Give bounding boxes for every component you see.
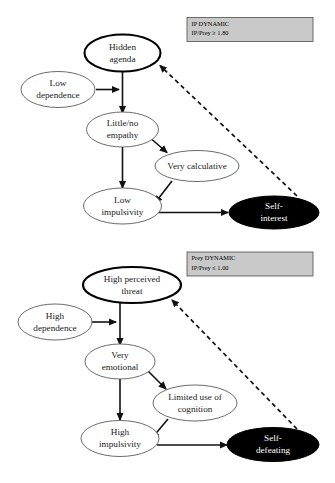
panel-ip-dynamic: IP DYNAMIC IP/Prey ≥ 1.80 Hidden agenda (21, 18, 319, 230)
node-low-dependence[interactable]: Low dependence (21, 72, 95, 108)
node-self-interest-label-line1: Self- (265, 201, 283, 211)
node-hidden-agenda-label-line1: Hidden (109, 42, 136, 52)
node-high-perceived-threat-label-line2: threat (122, 286, 143, 296)
legend-ip-dynamic: IP DYNAMIC IP/Prey ≥ 1.80 (187, 18, 313, 42)
node-limited-use-cognition-label-line2: cognition (178, 404, 213, 414)
node-high-dependence-label-line2: dependence (33, 323, 76, 333)
node-little-no-empathy-label-line2: empathy (107, 130, 139, 140)
node-self-defeating-label-line1: Self- (264, 433, 282, 443)
node-limited-use-cognition-label-line1: Limited use of (168, 392, 223, 402)
node-high-dependence[interactable]: High dependence (18, 304, 92, 340)
node-self-defeating-label-line2: defeating (256, 445, 291, 455)
node-high-impulsivity[interactable]: High impulsivity (81, 421, 159, 457)
legend-title: Prey DYNAMIC (192, 254, 236, 261)
legend-prey-dynamic: Prey DYNAMIC IP/Prey ≤ 1.00 (187, 252, 313, 276)
node-self-defeating[interactable]: Self- defeating (227, 428, 319, 462)
node-high-dependence-label-line1: High (46, 311, 65, 321)
legend-condition: IP/Prey ≥ 1.80 (192, 29, 229, 36)
node-hidden-agenda-label-line2: agenda (109, 54, 135, 64)
node-hidden-agenda[interactable]: Hidden agenda (85, 35, 161, 72)
node-very-emotional[interactable]: Very emotional (85, 344, 155, 379)
panel-prey-dynamic: Prey DYNAMIC IP/Prey ≤ 1.00 High perceiv… (18, 252, 319, 462)
node-very-calculative[interactable]: Very calculative (155, 151, 239, 182)
node-low-impulsivity-label-line2: impulsivity (102, 207, 144, 217)
node-little-no-empathy-label-line1: Little/no (107, 118, 139, 128)
node-high-perceived-threat-label-line1: High perceived (104, 274, 161, 284)
node-low-impulsivity[interactable]: Low impulsivity (84, 188, 162, 224)
node-very-emotional-label-line1: Very (111, 350, 129, 360)
node-very-emotional-label-line2: emotional (102, 362, 139, 372)
legend-condition: IP/Prey ≤ 1.00 (192, 264, 229, 271)
node-low-impulsivity-label-line1: Low (114, 195, 131, 205)
node-self-interest-label-line2: interest (260, 213, 287, 223)
node-very-calculative-label: Very calculative (167, 161, 226, 171)
node-self-interest[interactable]: Self- interest (229, 196, 319, 229)
node-low-dependence-label-line1: Low (50, 78, 67, 88)
node-little-no-empathy[interactable]: Little/no empathy (87, 112, 159, 147)
node-limited-use-cognition[interactable]: Limited use of cognition (153, 385, 237, 421)
figure-two-panel-flowchart: IP DYNAMIC IP/Prey ≥ 1.80 Hidden agenda (0, 0, 335, 483)
node-low-dependence-label-line2: dependence (36, 90, 79, 100)
node-high-perceived-threat[interactable]: High perceived threat (83, 267, 181, 303)
legend-title: IP DYNAMIC (192, 20, 230, 27)
node-high-impulsivity-label-line2: impulsivity (99, 439, 141, 449)
node-high-impulsivity-label-line1: High (111, 427, 130, 437)
